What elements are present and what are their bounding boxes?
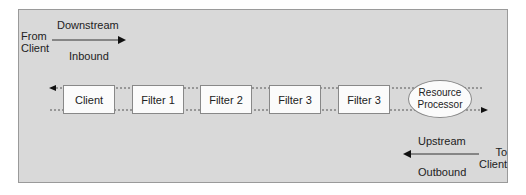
to-label-line2: Client: [479, 158, 507, 170]
endpoint-line2: Processor: [417, 99, 462, 111]
from-label-line2: Client: [21, 42, 49, 54]
endpoint-line1: Resource: [419, 87, 462, 99]
downstream-label: Downstream: [57, 19, 119, 31]
inbound-label: Inbound: [69, 50, 109, 62]
request-path-arrowhead-icon: [481, 107, 488, 113]
return-path-arrowhead-icon: [49, 85, 56, 91]
resource-processor-node: Resource Processor: [408, 80, 472, 118]
chain-node-client: Client: [63, 85, 115, 114]
outbound-label: Outbound: [418, 166, 466, 178]
chain-node-filter-3a: Filter 3: [269, 85, 321, 114]
from-label-line1: From: [21, 30, 49, 42]
downstream-arrowhead-icon: [118, 36, 126, 44]
chain-node-filter-2: Filter 2: [200, 85, 252, 114]
chain-node-filter-1: Filter 1: [132, 85, 184, 114]
to-client-label: To Client: [479, 146, 507, 170]
from-client-label: From Client: [21, 30, 49, 54]
to-label-line1: To: [479, 146, 507, 158]
chain-node-filter-3b: Filter 3: [338, 85, 390, 114]
upstream-arrowhead-icon: [403, 150, 411, 158]
upstream-label: Upstream: [418, 135, 466, 147]
